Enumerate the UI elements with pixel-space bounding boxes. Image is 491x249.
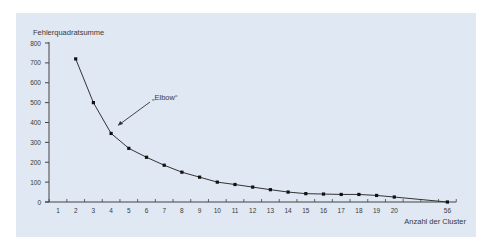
y-tick-label: 500 [30, 99, 41, 106]
annotation-arrow [118, 102, 150, 125]
data-point [322, 192, 325, 195]
y-tick-label: 100 [30, 179, 41, 186]
y-tick-label: 400 [30, 119, 41, 126]
data-point [127, 147, 130, 150]
x-axis-label: Anzahl der Cluster [404, 217, 466, 226]
y-tick-label: 300 [30, 139, 41, 146]
x-tick-label: 12 [249, 207, 257, 214]
elbow-chart: 0100200300400500600700800 12345678910111… [0, 0, 491, 249]
data-points [74, 57, 449, 203]
data-point [92, 101, 95, 104]
data-point [304, 192, 307, 195]
y-tick-label: 200 [30, 159, 41, 166]
data-point [287, 190, 290, 193]
data-point [163, 164, 166, 167]
elbow-annotation: „Elbow“ [118, 93, 178, 125]
x-axis-ticks: 123456789101112131415161718192056 [49, 199, 456, 214]
y-axis-label: Fehlerquadratsumme [33, 28, 104, 37]
data-point [340, 193, 343, 196]
data-point [446, 200, 449, 203]
data-point [233, 183, 236, 186]
x-tick-label: 56 [444, 207, 452, 214]
data-point [145, 156, 148, 159]
data-point [110, 132, 113, 135]
data-point [375, 194, 378, 197]
data-point [180, 171, 183, 174]
annotation-label: „Elbow“ [152, 93, 178, 102]
data-point [251, 185, 254, 188]
data-point [393, 195, 396, 198]
x-tick-label: 10 [214, 207, 222, 214]
x-tick-label: 13 [267, 207, 275, 214]
x-tick-label: 15 [302, 207, 310, 214]
x-tick-label: 6 [145, 207, 149, 214]
x-tick-label: 11 [232, 207, 239, 214]
x-tick-label: 18 [355, 207, 363, 214]
x-tick-label: 20 [391, 207, 399, 214]
data-point [216, 181, 219, 184]
x-tick-label: 8 [180, 207, 184, 214]
arrow-head-icon [118, 121, 123, 126]
y-tick-label: 800 [30, 40, 41, 47]
y-tick-label: 0 [37, 199, 41, 206]
y-tick-label: 600 [30, 79, 41, 86]
x-tick-label: 16 [320, 207, 328, 214]
data-line [76, 59, 448, 202]
x-tick-label: 5 [127, 207, 131, 214]
data-point [74, 57, 77, 60]
y-tick-label: 700 [30, 59, 41, 66]
x-tick-label: 9 [198, 207, 202, 214]
x-tick-label: 14 [284, 207, 292, 214]
x-tick-label: 2 [74, 207, 78, 214]
x-tick-label: 19 [373, 207, 381, 214]
x-tick-label: 3 [92, 207, 96, 214]
y-axis-ticks: 0100200300400500600700800 [30, 40, 49, 206]
x-tick-label: 1 [56, 207, 60, 214]
x-tick-label: 17 [338, 207, 346, 214]
axes [45, 42, 456, 202]
data-point [198, 176, 201, 179]
x-tick-label: 7 [162, 207, 166, 214]
data-point [357, 193, 360, 196]
data-point [269, 188, 272, 191]
x-tick-label: 4 [109, 207, 113, 214]
